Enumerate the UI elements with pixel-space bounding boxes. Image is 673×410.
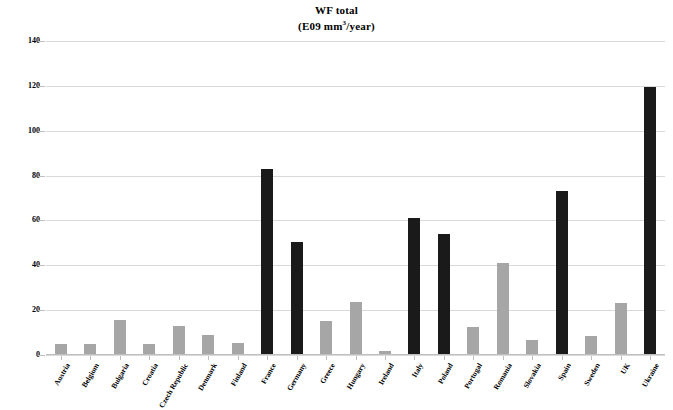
x-axis-tick-label: UK <box>619 362 632 376</box>
x-axis-tick-label: Hungary <box>345 362 366 391</box>
x-axis-tick-label: Italy <box>411 362 425 379</box>
x-axis-tick-mark <box>473 356 474 360</box>
x-axis-tick-mark <box>297 356 298 360</box>
y-axis-tick-mark <box>38 176 45 177</box>
bar <box>173 326 185 355</box>
x-axis-tick-label: Austria <box>53 362 72 387</box>
bar <box>202 335 214 355</box>
y-axis-tick-mark <box>38 220 45 221</box>
x-axis-tick-mark <box>208 356 209 360</box>
x-axis-tick-label: France <box>260 362 278 385</box>
x-axis-tick-mark <box>267 356 268 360</box>
bar <box>526 340 538 355</box>
bar <box>438 234 450 355</box>
y-axis-tick-mark <box>38 310 45 311</box>
x-axis-tick-mark <box>414 356 415 360</box>
bar <box>320 321 332 355</box>
y-axis-tick-mark <box>38 131 45 132</box>
y-axis-tick-label: 60 <box>6 216 40 224</box>
x-axis-tick-mark <box>90 356 91 360</box>
y-axis-tick-label: 120 <box>6 82 40 90</box>
x-axis-tick-label: Spain <box>557 362 573 382</box>
bar <box>408 218 420 355</box>
x-axis-tick-mark <box>562 356 563 360</box>
x-axis-tick-mark <box>120 356 121 360</box>
gridline <box>46 131 665 132</box>
y-axis-tick-label: 20 <box>6 306 40 314</box>
chart-page: WF total (E09 mm3/year) 0204060801001201… <box>0 0 673 410</box>
x-axis-tick-mark <box>503 356 504 360</box>
y-axis: 020406080100120140 <box>0 41 40 355</box>
bar <box>644 87 656 355</box>
bar <box>261 169 273 355</box>
x-axis-tick-mark <box>591 356 592 360</box>
x-axis-tick-mark <box>444 356 445 360</box>
x-axis-tick-label: Poland <box>437 362 455 385</box>
bar <box>350 302 362 355</box>
y-axis-tick-label: 0 <box>6 351 40 359</box>
x-axis-tick-label: Belgium <box>81 362 101 389</box>
bar <box>615 303 627 355</box>
y-axis-tick-label: 140 <box>6 37 40 45</box>
x-axis-tick-label: Denmark <box>197 362 219 392</box>
x-axis-tick-mark <box>532 356 533 360</box>
y-axis-tick-mark <box>38 265 45 266</box>
bar <box>114 320 126 355</box>
chart-title: WF total (E09 mm3/year) <box>0 4 673 33</box>
y-axis-tick-label: 40 <box>6 261 40 269</box>
chart-title-line1: WF total <box>315 4 358 16</box>
chart-title-units-suffix: /year) <box>346 20 375 32</box>
x-axis-tick-mark <box>149 356 150 360</box>
gridline <box>46 220 665 221</box>
x-axis-tick-label: Finland <box>229 362 248 388</box>
x-axis-tick-label: Croatia <box>141 362 160 387</box>
bar <box>556 191 568 355</box>
y-axis-tick-mark <box>38 41 45 42</box>
x-axis-tick-label: Slovakia <box>523 362 544 390</box>
x-axis-tick-label: Czech Republic <box>158 362 190 409</box>
y-axis-tick-mark <box>38 86 45 87</box>
gridline <box>46 41 665 42</box>
bar <box>497 263 509 355</box>
gridline <box>46 86 665 87</box>
x-axis-line <box>46 354 665 355</box>
chart-title-line2: (E09 mm3/year) <box>0 17 673 33</box>
gridline <box>46 176 665 177</box>
chart-title-units-prefix: (E09 mm <box>298 20 342 32</box>
x-axis-tick-mark <box>179 356 180 360</box>
bar <box>467 327 479 355</box>
y-axis-tick-mark <box>38 355 45 356</box>
x-axis-tick-mark <box>650 356 651 360</box>
x-axis-tick-mark <box>61 356 62 360</box>
bar <box>585 336 597 355</box>
x-axis-tick-mark <box>326 356 327 360</box>
plot-area <box>46 41 665 355</box>
x-axis-tick-label: Portugal <box>463 362 484 390</box>
x-axis-tick-label: Germany <box>285 362 307 392</box>
x-axis-tick-label: Bulgaria <box>110 362 131 390</box>
x-axis-tick-label: Romania <box>492 362 514 391</box>
x-axis-tick-label: Greece <box>319 362 337 385</box>
bar <box>291 242 303 355</box>
y-axis-tick-label: 100 <box>6 127 40 135</box>
x-axis-tick-mark <box>238 356 239 360</box>
gridline <box>46 265 665 266</box>
x-axis-tick-mark <box>385 356 386 360</box>
x-axis-tick-label: Sweden <box>583 362 602 387</box>
x-axis-tick-mark <box>621 356 622 360</box>
x-axis-tick-label: Ireland <box>377 362 396 386</box>
x-axis-tick-label: Ukraine <box>641 362 661 389</box>
y-axis-tick-label: 80 <box>6 172 40 180</box>
x-axis-labels: AustriaBelgiumBulgariaCroatiaCzech Repub… <box>46 356 665 410</box>
x-axis-tick-mark <box>356 356 357 360</box>
